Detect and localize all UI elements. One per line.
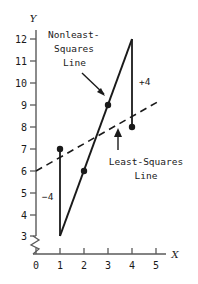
y-tick-label-5: 5 xyxy=(21,188,27,199)
x-tick-label-2: 2 xyxy=(81,260,87,271)
residual-label-minus4: −4 xyxy=(42,191,54,202)
y-tick-label-11: 11 xyxy=(15,56,27,67)
y-tick-label-3: 3 xyxy=(21,231,27,242)
least-squares-label-line1: Least-Squares xyxy=(109,156,183,167)
x-tick-label-3: 3 xyxy=(105,260,111,271)
data-point xyxy=(57,146,63,152)
nonleast-squares-annotation: Nonleast- Squares Line xyxy=(48,29,105,96)
y-tick-label-10: 10 xyxy=(15,78,27,89)
x-tick-label-4: 4 xyxy=(129,260,135,271)
least-squares-label-line2: Line xyxy=(135,170,158,181)
residual-label-plus4: +4 xyxy=(139,76,151,87)
x-axis-label: X xyxy=(170,249,179,260)
scatter-plot-svg: 12 11 10 9 8 7 6 5 4 3 0 1 2 3 4 5 xyxy=(0,0,198,284)
nonleast-squares-label-line3: Line xyxy=(63,57,86,68)
y-tick-label-9: 9 xyxy=(21,100,27,111)
data-point xyxy=(81,168,87,174)
x-ticks-group xyxy=(36,248,156,254)
least-squares-annotation: Least-Squares Line xyxy=(109,128,183,181)
y-tick-label-7: 7 xyxy=(21,144,27,155)
chart-figure: 12 11 10 9 8 7 6 5 4 3 0 1 2 3 4 5 xyxy=(0,0,198,284)
y-tick-labels-group: 12 11 10 9 8 7 6 5 4 3 xyxy=(15,34,27,242)
y-axis-break-icon xyxy=(31,236,39,254)
axes-group xyxy=(31,30,166,254)
x-tick-label-5: 5 xyxy=(153,260,159,271)
nonleast-squares-label-line1: Nonleast- xyxy=(48,29,99,40)
data-point xyxy=(129,124,135,130)
nonleast-squares-line xyxy=(60,39,132,236)
x-tick-label-0: 0 xyxy=(33,260,39,271)
data-point xyxy=(105,102,111,108)
y-tick-label-6: 6 xyxy=(21,166,27,177)
nonleast-squares-label-line2: Squares xyxy=(54,43,94,54)
y-tick-label-8: 8 xyxy=(21,122,27,133)
y-ticks-group xyxy=(30,39,36,236)
y-tick-label-4: 4 xyxy=(21,210,27,221)
x-tick-labels-group: 0 1 2 3 4 5 xyxy=(33,260,159,271)
least-squares-arrowhead-icon xyxy=(114,128,122,137)
x-tick-label-1: 1 xyxy=(57,260,63,271)
y-axis-label: Y xyxy=(30,13,38,24)
y-tick-label-12: 12 xyxy=(15,34,27,45)
